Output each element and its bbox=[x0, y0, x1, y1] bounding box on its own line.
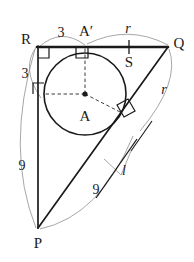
segment-length-AprimeQ-radius: r bbox=[125, 22, 130, 36]
right-angle-at-R bbox=[38, 47, 49, 58]
tangent-line-l-extension bbox=[131, 121, 152, 151]
segment-length-RP: 9 bbox=[19, 159, 26, 173]
right-angle-marks bbox=[33, 47, 135, 117]
tangent-line-l bbox=[96, 139, 137, 198]
measurement-arcs bbox=[20, 34, 171, 229]
point-label-Q: Q bbox=[174, 36, 185, 51]
point-label-S: S bbox=[125, 55, 133, 70]
point-label-R: R bbox=[21, 32, 31, 47]
tangent-line-label: l bbox=[122, 164, 126, 178]
segment-length-RAprime: 3 bbox=[58, 26, 65, 40]
geometry-figure: R Q P A A′ S 3 3 r r 9 9 l bbox=[0, 0, 194, 262]
arc-R-to-left-tangent bbox=[29, 46, 41, 98]
point-label-A: A bbox=[80, 109, 91, 124]
center-point-A-dot bbox=[82, 91, 87, 96]
segment-length-RT: 3 bbox=[22, 67, 29, 81]
pointer-to-line-l bbox=[104, 159, 121, 175]
segment-length-PT: 9 bbox=[93, 183, 100, 197]
segment-length-QT-radius: r bbox=[161, 83, 166, 97]
arc-Q-to-tangent bbox=[140, 49, 172, 131]
triangle-PRQ bbox=[37, 46, 168, 228]
arc-P-to-tangent bbox=[40, 136, 133, 229]
point-label-P: P bbox=[34, 236, 42, 251]
point-label-A-prime: A′ bbox=[79, 24, 93, 39]
side-PQ bbox=[38, 47, 168, 228]
radius-dashed-lines bbox=[44, 47, 122, 113]
